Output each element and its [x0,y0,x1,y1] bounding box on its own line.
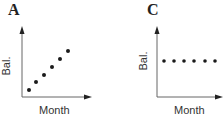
x-axis [157,95,223,100]
y-axis [155,26,160,97]
x-axis-label: Month [39,104,70,116]
x-axis-label: Month [174,104,205,116]
y-axis-arrow-icon [155,26,160,34]
y-axis-label: Bal. [0,57,12,76]
x-axis-arrow-icon [84,95,92,100]
chart-c-plot [111,0,223,132]
chart-panel-a: A Bal. Month [0,0,111,132]
x-axis [22,95,92,100]
data-points [162,59,217,63]
x-axis-arrow-icon [215,95,223,100]
chart-panel-c: C Bal. Month [111,0,223,132]
y-axis-label: Bal. [137,52,149,71]
y-axis [20,26,25,97]
data-points [27,49,70,92]
y-axis-arrow-icon [20,26,25,34]
